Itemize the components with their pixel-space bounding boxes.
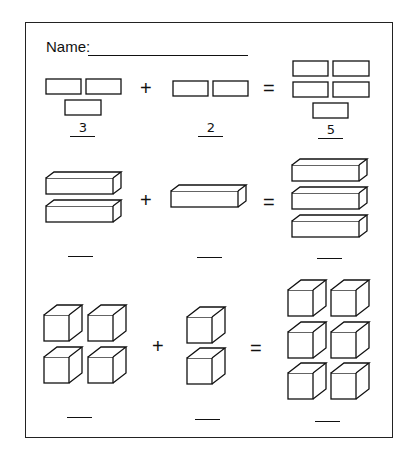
rods-group: [46, 159, 367, 237]
flats-group: [46, 61, 369, 118]
base-ten-blocks-art: [0, 0, 412, 463]
cubes-group: [44, 280, 369, 399]
